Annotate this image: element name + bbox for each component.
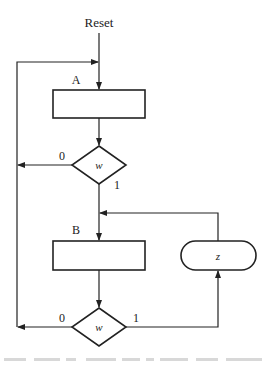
state-b-box <box>53 241 145 270</box>
asm-chart: Reset A w 0 1 B w 0 1 z <box>0 0 271 367</box>
output-z-label: z <box>215 250 221 262</box>
decision-2-false-label: 0 <box>59 311 65 325</box>
state-a-label: A <box>72 73 81 87</box>
reset-label: Reset <box>85 15 114 30</box>
d2-true-arrow <box>126 271 218 327</box>
decision-1-false-label: 0 <box>59 149 65 163</box>
loop-back-line <box>17 62 98 327</box>
state-b-label: B <box>72 223 80 237</box>
state-a-box <box>53 90 145 118</box>
decision-2-true-label: 1 <box>133 311 139 325</box>
cropped-caption <box>0 358 271 367</box>
z-feedback-line <box>100 213 218 241</box>
decision-1-true-label: 1 <box>114 178 120 192</box>
decision-1-var: w <box>95 159 103 171</box>
decision-2-var: w <box>95 321 103 333</box>
